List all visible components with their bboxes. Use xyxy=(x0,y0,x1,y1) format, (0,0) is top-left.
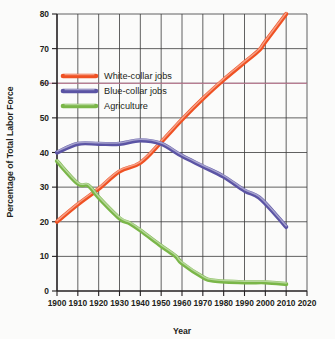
x-axis-title: Year xyxy=(173,326,192,336)
chart-figure: 01020304050607080 1900191019201930194019… xyxy=(0,0,335,339)
y-axis-title: Percentage of Total Labor Force xyxy=(5,86,15,217)
x-tick-label-1990: 1990 xyxy=(235,298,254,308)
x-tick-label-1980: 1980 xyxy=(214,298,233,308)
legend-label: Agriculture xyxy=(104,101,148,111)
x-tick-label-2020: 2020 xyxy=(298,298,317,308)
y-tick-label-30: 30 xyxy=(40,182,50,192)
x-tick-label-1900: 1900 xyxy=(48,298,67,308)
y-tick-label-40: 40 xyxy=(40,148,50,158)
x-tick-label-1960: 1960 xyxy=(173,298,192,308)
x-tick-label-2000: 2000 xyxy=(256,298,275,308)
legend-label: Blue-collar jobs xyxy=(104,86,167,96)
y-tick-label-0: 0 xyxy=(44,286,49,296)
x-tick-label-2010: 2010 xyxy=(277,298,296,308)
x-tick-label-1940: 1940 xyxy=(131,298,150,308)
x-tick-label-1920: 1920 xyxy=(89,298,108,308)
y-tick-label-20: 20 xyxy=(40,217,50,227)
chart-background xyxy=(0,0,335,339)
x-tick-label-1950: 1950 xyxy=(152,298,171,308)
y-tick-label-50: 50 xyxy=(40,113,50,123)
y-axis-tick-labels: 01020304050607080 xyxy=(40,9,50,296)
y-tick-label-70: 70 xyxy=(40,44,50,54)
y-tick-label-80: 80 xyxy=(40,9,50,19)
legend-label: White-collar jobs xyxy=(104,71,172,81)
x-tick-label-1930: 1930 xyxy=(110,298,129,308)
x-tick-label-1970: 1970 xyxy=(194,298,213,308)
line-chart: 01020304050607080 1900191019201930194019… xyxy=(0,0,335,339)
y-tick-label-60: 60 xyxy=(40,78,50,88)
y-tick-label-10: 10 xyxy=(40,251,50,261)
x-tick-label-1910: 1910 xyxy=(69,298,88,308)
